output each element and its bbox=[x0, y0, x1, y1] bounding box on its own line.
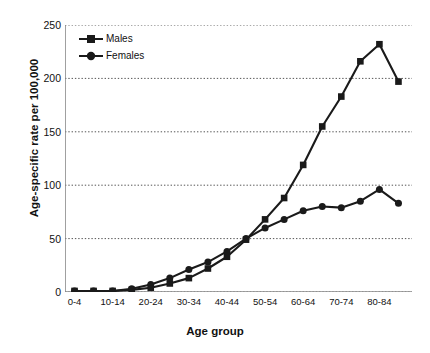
legend-label-females: Females bbox=[106, 50, 144, 61]
data-point bbox=[300, 207, 307, 214]
data-point bbox=[147, 281, 154, 288]
series-line bbox=[75, 44, 399, 291]
x-axis-tick-labels: 0-410-1420-2430-3440-4450-5460-6470-7480… bbox=[0, 296, 430, 316]
data-point bbox=[186, 275, 193, 282]
data-point bbox=[395, 78, 402, 85]
data-point bbox=[357, 58, 364, 65]
data-point bbox=[128, 285, 135, 292]
data-point bbox=[166, 275, 173, 282]
data-point bbox=[185, 266, 192, 273]
x-axis-tick-label: 50-54 bbox=[253, 296, 277, 307]
data-point bbox=[319, 203, 326, 210]
data-point bbox=[300, 162, 307, 169]
gridlines bbox=[65, 25, 412, 292]
data-point bbox=[319, 123, 326, 130]
y-axis-tick-label: 200 bbox=[33, 73, 61, 83]
data-point bbox=[262, 216, 269, 223]
y-axis-tick-label: 100 bbox=[33, 180, 61, 190]
x-axis-tick-label: 0-4 bbox=[68, 296, 82, 307]
x-axis-tick-label: 10-14 bbox=[100, 296, 124, 307]
data-point bbox=[395, 200, 402, 207]
x-axis-tick-label: 80-84 bbox=[367, 296, 391, 307]
data-point bbox=[204, 259, 211, 266]
x-axis-tick-label: 20-24 bbox=[139, 296, 163, 307]
x-axis-tick-label: 70-74 bbox=[329, 296, 353, 307]
legend-item-males: Males bbox=[78, 30, 144, 47]
legend-label-males: Males bbox=[106, 33, 133, 44]
data-point bbox=[223, 248, 230, 255]
x-axis-title: Age group bbox=[0, 325, 430, 337]
data-point bbox=[243, 235, 250, 242]
chart-legend: Males Females bbox=[78, 30, 144, 64]
y-axis-tick-label: 150 bbox=[33, 127, 61, 137]
data-point bbox=[262, 224, 269, 231]
legend-item-females: Females bbox=[78, 47, 144, 64]
x-axis-tick-label: 30-34 bbox=[177, 296, 201, 307]
data-point bbox=[205, 265, 212, 272]
y-axis-tick-labels: 050100150200250 bbox=[28, 0, 61, 320]
plot-svg bbox=[65, 25, 412, 292]
series-line bbox=[75, 189, 399, 290]
data-point bbox=[338, 93, 345, 100]
x-axis-tick-label: 60-64 bbox=[291, 296, 315, 307]
chart-container: Age-specific rate per 100,000 0501001502… bbox=[0, 0, 430, 353]
data-point bbox=[281, 195, 288, 202]
y-axis-tick-label: 50 bbox=[33, 234, 61, 244]
x-axis-tick-label: 40-44 bbox=[215, 296, 239, 307]
legend-marker-circle-icon bbox=[78, 50, 104, 62]
data-point bbox=[376, 41, 383, 48]
axis-lines bbox=[65, 25, 412, 292]
data-point bbox=[281, 216, 288, 223]
data-point bbox=[338, 204, 345, 211]
data-point bbox=[376, 186, 383, 193]
data-point bbox=[357, 198, 364, 205]
plot-area bbox=[65, 25, 412, 292]
series-males bbox=[71, 41, 402, 292]
y-axis-tick-label: 250 bbox=[33, 20, 61, 30]
legend-marker-square-icon bbox=[78, 33, 104, 45]
